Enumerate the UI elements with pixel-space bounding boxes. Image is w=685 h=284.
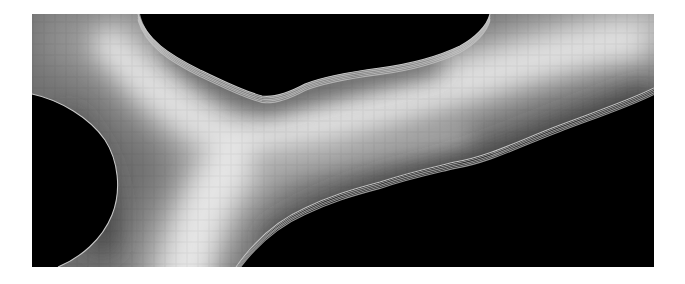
branching-intensity-figure xyxy=(0,0,685,284)
image-panel xyxy=(32,14,660,280)
